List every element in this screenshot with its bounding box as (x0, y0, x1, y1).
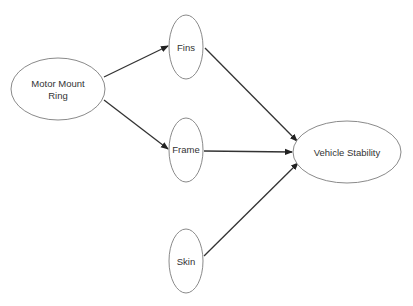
node-label: Frame (172, 144, 199, 155)
diagram-canvas: Motor Mount Ring Fins Frame Skin Vehicle… (0, 0, 413, 306)
node-label: Ring (48, 90, 68, 101)
edge-motor-mount-ring-to-fins (104, 46, 168, 77)
node-label: Motor Mount (31, 78, 85, 89)
edge-skin-to-vehicle-stability (204, 163, 298, 256)
node-label: Fins (177, 42, 195, 53)
node-ellipse (11, 58, 105, 120)
node-skin[interactable]: Skin (169, 229, 203, 293)
node-motor-mount-ring[interactable]: Motor Mount Ring (11, 58, 105, 120)
edge-frame-to-vehicle-stability (204, 151, 292, 152)
node-frame[interactable]: Frame (169, 118, 203, 182)
node-vehicle-stability[interactable]: Vehicle Stability (293, 121, 401, 183)
node-label: Skin (177, 256, 195, 267)
edge-fins-to-vehicle-stability (205, 48, 297, 141)
node-fins[interactable]: Fins (169, 15, 203, 79)
edge-motor-mount-ring-to-frame (104, 100, 168, 149)
node-label: Vehicle Stability (314, 147, 381, 158)
